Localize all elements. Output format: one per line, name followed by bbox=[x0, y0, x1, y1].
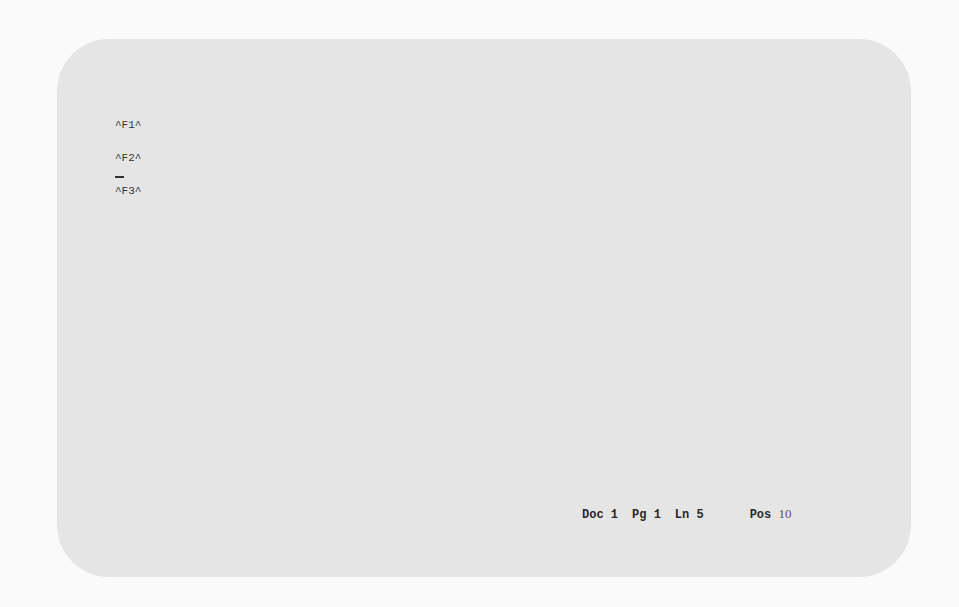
merge-field-f3: ^F3^ bbox=[115, 186, 141, 197]
line-label: Ln bbox=[675, 508, 689, 522]
position-label: Pos bbox=[750, 508, 772, 522]
line-value: 5 bbox=[696, 508, 703, 522]
page-value: 1 bbox=[654, 508, 661, 522]
doc-label: Doc bbox=[582, 508, 604, 522]
position-value: 10 bbox=[778, 507, 791, 521]
merge-field-f1: ^F1^ bbox=[115, 120, 141, 131]
merge-field-f2: ^F2^ bbox=[115, 153, 141, 164]
text-cursor bbox=[115, 176, 124, 178]
editor-screen[interactable]: ^F1^ ^F2^ ^F3^ Doc 1 Pg 1 Ln 5 Pos 10 bbox=[57, 39, 911, 577]
document-body[interactable]: ^F1^ ^F2^ ^F3^ bbox=[115, 98, 141, 219]
doc-value: 1 bbox=[611, 508, 618, 522]
status-bar: Doc 1 Pg 1 Ln 5 Pos 10 bbox=[582, 507, 791, 522]
page-label: Pg bbox=[632, 508, 646, 522]
